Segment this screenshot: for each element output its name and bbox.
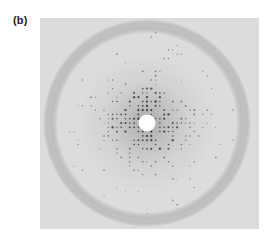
panel-label: (b) xyxy=(13,14,28,26)
diffraction-pattern-image xyxy=(40,18,259,229)
beam-stop xyxy=(139,115,156,132)
diffraction-pattern-graphic xyxy=(40,18,259,229)
